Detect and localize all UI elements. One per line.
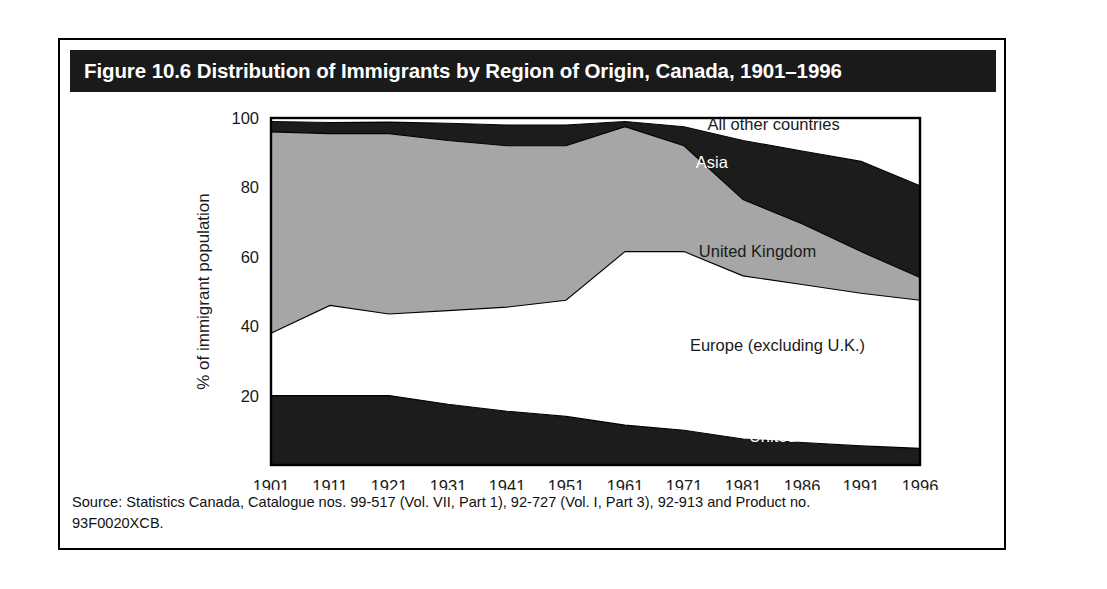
- chart-region: 20406080100 1901191119211931194119511961…: [70, 102, 996, 490]
- series-label-all-other-countries: All other countries: [708, 115, 840, 133]
- y-tick-60: 60: [241, 248, 259, 266]
- figure-title: Figure 10.6 Distribution of Immigrants b…: [70, 59, 842, 83]
- x-tick-1986: 1986: [784, 477, 821, 490]
- series-label-united-kingdom: United Kingdom: [699, 242, 816, 260]
- series-label-europe-excluding-u-k: Europe (excluding U.K.): [690, 336, 865, 354]
- source-note: Source: Statistics Canada, Catalogue nos…: [72, 492, 984, 534]
- source-line-2: 93F0020XCB.: [72, 513, 984, 534]
- x-tick-1921: 1921: [371, 477, 408, 490]
- x-tick-1951: 1951: [548, 477, 585, 490]
- x-tick-1931: 1931: [430, 477, 467, 490]
- x-tick-1961: 1961: [607, 477, 644, 490]
- y-axis-title-text: % of immigrant population: [194, 193, 213, 390]
- x-tick-1996: 1996: [902, 477, 939, 490]
- y-tick-40: 40: [241, 317, 259, 335]
- x-tick-1941: 1941: [489, 477, 526, 490]
- series-label-asia: Asia: [696, 153, 729, 171]
- series-label-united-states: United States: [749, 427, 848, 445]
- figure-frame: Figure 10.6 Distribution of Immigrants b…: [58, 38, 1006, 550]
- y-tick-80: 80: [241, 178, 259, 196]
- x-tick-1901: 1901: [253, 477, 290, 490]
- y-axis-tick-labels: 20406080100: [231, 109, 259, 405]
- x-tick-1981: 1981: [725, 477, 762, 490]
- source-line-1: Source: Statistics Canada, Catalogue nos…: [72, 492, 984, 513]
- stacked-area-chart: 20406080100 1901191119211931194119511961…: [70, 102, 996, 490]
- figure-title-bar: Figure 10.6 Distribution of Immigrants b…: [70, 50, 996, 92]
- x-tick-1971: 1971: [666, 477, 703, 490]
- y-tick-20: 20: [241, 387, 259, 405]
- y-tick-100: 100: [231, 109, 259, 127]
- x-tick-1911: 1911: [312, 477, 347, 490]
- x-tick-1991: 1991: [843, 477, 880, 490]
- y-axis-title: % of immigrant population: [194, 193, 213, 390]
- plot-area-bands: [271, 118, 920, 465]
- x-axis-tick-labels: 1901191119211931194119511961197119811986…: [253, 477, 939, 490]
